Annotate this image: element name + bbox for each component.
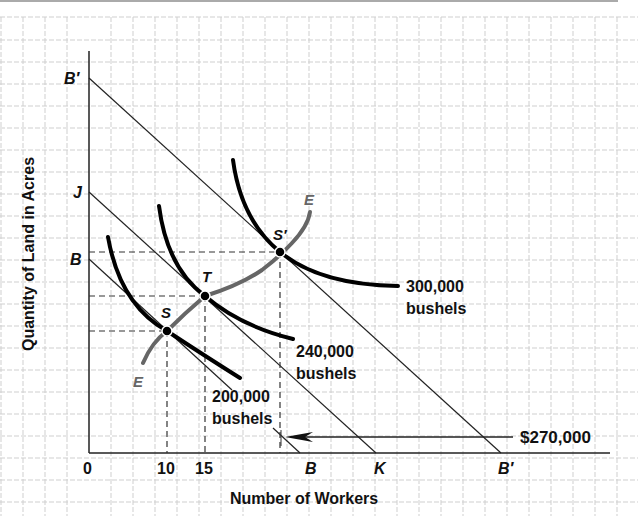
y-label-bprime: B′ bbox=[64, 70, 81, 87]
x-label-b: B bbox=[305, 460, 317, 477]
isoquant-300000 bbox=[233, 160, 398, 286]
y-label-j: J bbox=[73, 184, 83, 201]
x-tick-10: 10 bbox=[157, 460, 175, 477]
point-s-prime bbox=[275, 247, 285, 257]
x-label-bprime: B′ bbox=[498, 460, 515, 477]
x-label-k: K bbox=[374, 460, 387, 477]
label-s: S bbox=[161, 304, 171, 321]
point-s bbox=[162, 326, 172, 336]
isoquant-300000-value: 300,000 bbox=[406, 278, 464, 295]
isoquant-chart: B′ J B 0 10 15 B K B′ S T S′ E E 300,000… bbox=[0, 0, 638, 516]
point-t bbox=[200, 291, 210, 301]
x-tick-15: 15 bbox=[195, 460, 213, 477]
isoquant-label-240000: 240,000 bushels bbox=[296, 343, 358, 382]
y-axis-title: Quantity of Land in Acres bbox=[20, 157, 37, 351]
budget-line-bprime bbox=[89, 78, 501, 453]
isoquant-240000-unit: bushels bbox=[296, 365, 357, 382]
x-tick-0: 0 bbox=[83, 460, 92, 477]
y-label-b: B bbox=[70, 251, 82, 268]
label-e-top: E bbox=[304, 191, 315, 208]
cost-label: $270,000 bbox=[520, 428, 591, 447]
isoquant-label-200000: 200,000 bushels bbox=[212, 388, 274, 427]
label-e-bottom: E bbox=[133, 373, 144, 390]
isoquant-200000-unit: bushels bbox=[212, 410, 273, 427]
x-axis-title: Number of Workers bbox=[230, 490, 378, 507]
isoquant-300000-unit: bushels bbox=[406, 300, 467, 317]
isoquant-200000-value: 200,000 bbox=[212, 388, 270, 405]
isoquant-240000-value: 240,000 bbox=[296, 343, 354, 360]
isoquant-label-300000: 300,000 bushels bbox=[406, 278, 468, 317]
label-s-prime: S′ bbox=[273, 226, 288, 243]
